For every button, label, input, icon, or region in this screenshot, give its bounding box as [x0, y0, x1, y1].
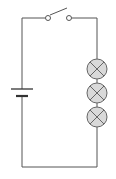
- switch-lever: [50, 8, 67, 15]
- lamp-icon: [87, 59, 107, 79]
- switch-terminal-right: [67, 16, 72, 21]
- circuit-diagram: [0, 0, 116, 179]
- battery-icon: [11, 89, 33, 96]
- wire-top-right: [72, 18, 98, 59]
- switch-icon: [46, 8, 72, 21]
- wire-bottom: [22, 96, 97, 167]
- wires: [22, 18, 97, 167]
- wire-left-top: [22, 18, 46, 89]
- switch-terminal-left: [46, 16, 51, 21]
- lamp-icon: [87, 107, 107, 127]
- lamp-icon: [87, 83, 107, 103]
